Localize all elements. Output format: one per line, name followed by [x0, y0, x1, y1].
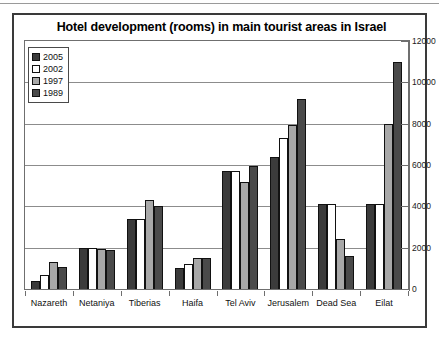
chart-figure: Hotel development (rooms) in main touris…: [0, 0, 439, 343]
bar: [345, 256, 354, 289]
bar: [193, 258, 202, 289]
x-axis-tick: [408, 291, 409, 296]
y-axis-tick-label: 4000: [412, 201, 431, 211]
x-axis-tick: [25, 291, 26, 296]
y-axis-tick: [401, 289, 408, 290]
bar: [175, 268, 184, 289]
legend-item-label: 1989: [43, 89, 63, 98]
bar: [127, 219, 136, 289]
x-axis-label: Nazareth: [31, 298, 68, 308]
x-axis-label: Eilat: [375, 298, 393, 308]
bar: [145, 200, 154, 289]
x-axis-label: Dead Sea: [316, 298, 356, 308]
bar: [279, 138, 288, 289]
bar: [49, 262, 58, 289]
bar: [375, 204, 384, 289]
bar: [366, 204, 375, 289]
bar: [40, 275, 49, 289]
x-axis-label: Netaniya: [79, 298, 115, 308]
x-axis-tick: [360, 291, 361, 296]
legend-swatch-icon: [32, 77, 40, 85]
bar: [336, 239, 345, 289]
bar: [270, 157, 279, 289]
plot-area: [25, 41, 408, 289]
y-axis-tick: [401, 206, 408, 207]
legend-item: 2002: [32, 63, 63, 75]
bar-group: [264, 41, 312, 289]
y-axis-tick-label: 10000: [412, 77, 436, 87]
plot-frame: [24, 40, 409, 290]
chart-legend: 2005200219971989: [28, 47, 69, 103]
x-axis-tick: [169, 291, 170, 296]
bar-group: [73, 41, 121, 289]
bar: [384, 124, 393, 289]
x-axis-label: Tiberias: [129, 298, 161, 308]
bar: [327, 204, 336, 289]
y-axis-tick-label: 6000: [412, 160, 431, 170]
legend-item: 1997: [32, 75, 63, 87]
bar: [106, 250, 115, 289]
chart-title: Hotel development (rooms) in main touris…: [14, 20, 429, 34]
x-axis-label: Jerusalem: [268, 298, 310, 308]
bar: [184, 264, 193, 289]
x-axis-tick: [121, 291, 122, 296]
bar: [240, 182, 249, 289]
legend-item-label: 2005: [43, 53, 63, 62]
bar: [202, 258, 211, 289]
bar: [297, 99, 306, 289]
bar: [79, 248, 88, 289]
x-axis-tick: [73, 291, 74, 296]
legend-swatch-icon: [32, 89, 40, 97]
top-divider: [0, 3, 439, 4]
y-axis-tick: [401, 41, 408, 42]
legend-item: 2005: [32, 51, 63, 63]
y-axis-tick-label: 0: [412, 284, 417, 294]
y-axis-tick-label: 12000: [412, 36, 436, 46]
x-axis-tick: [217, 291, 218, 296]
x-axis-tick: [264, 291, 265, 296]
y-axis-tick: [401, 82, 408, 83]
y-axis-tick-label: 8000: [412, 119, 431, 129]
bar: [288, 125, 297, 289]
legend-item: 1989: [32, 87, 63, 99]
bar: [97, 249, 106, 289]
y-axis-tick: [401, 124, 408, 125]
legend-item-label: 2002: [43, 65, 63, 74]
chart-card: Hotel development (rooms) in main touris…: [12, 13, 427, 328]
bar-group: [312, 41, 360, 289]
x-axis-label: Tel Aviv: [225, 298, 255, 308]
x-axis-tick: [312, 291, 313, 296]
bar-group: [121, 41, 169, 289]
y-axis-tick: [401, 165, 408, 166]
x-axis-label: Haifa: [182, 298, 203, 308]
bar-group: [217, 41, 265, 289]
legend-swatch-icon: [32, 53, 40, 61]
legend-item-label: 1997: [43, 77, 63, 86]
bar: [88, 248, 97, 289]
bar: [136, 219, 145, 289]
legend-swatch-icon: [32, 65, 40, 73]
bar: [393, 62, 402, 289]
y-axis-spine: [409, 40, 410, 291]
bar: [249, 166, 258, 289]
bar: [31, 281, 40, 289]
bar: [222, 171, 231, 289]
bar: [231, 171, 240, 289]
bar: [318, 204, 327, 289]
y-axis-tick: [401, 248, 408, 249]
y-axis-tick-label: 2000: [412, 243, 431, 253]
bar: [154, 206, 163, 289]
bar-group: [169, 41, 217, 289]
bar: [58, 267, 67, 289]
